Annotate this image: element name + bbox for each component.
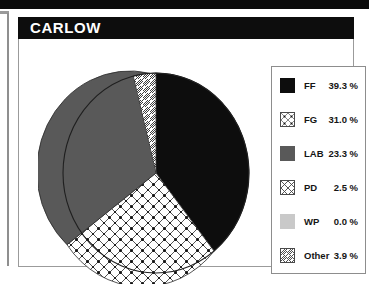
legend-value-pd: 2.5 % (334, 182, 358, 193)
legend-item-pd[interactable]: PD 2.5 % (272, 170, 365, 204)
pie-chart (38, 58, 272, 284)
legend-value-ff: 39.3 % (328, 80, 358, 91)
title-banner: CARLOW (18, 17, 354, 39)
legend-item-lab[interactable]: LAB 23.3 % (272, 136, 365, 170)
legend-item-ff[interactable]: FF 39.3 % (272, 68, 365, 102)
legend-label-ff: FF (304, 80, 316, 91)
legend-value-fg: 31.0 % (328, 114, 358, 125)
legend-label-pd: PD (304, 182, 317, 193)
legend-value-other: 3.9 % (334, 250, 358, 261)
page-top-edge-bar (0, 0, 369, 9)
legend-label-lab: LAB (304, 148, 324, 159)
legend-label-wp: WP (304, 216, 319, 227)
pie-chart-plot-area (38, 58, 272, 284)
legend-swatch-icon-other (280, 248, 295, 263)
legend: FF 39.3 % FG 31.0 % LAB 23.3 % PD 2.5 % … (271, 66, 366, 274)
legend-value-lab: 23.3 % (328, 148, 358, 159)
legend-label-other: Other (304, 250, 329, 261)
legend-item-wp[interactable]: WP 0.0 % (272, 204, 365, 238)
page-title: CARLOW (30, 19, 101, 36)
chart-frame: FF 39.3 % FG 31.0 % LAB 23.3 % PD 2.5 % … (18, 17, 354, 267)
page-margin-rule (7, 13, 9, 266)
legend-swatch-icon-fg (280, 112, 295, 127)
legend-swatch-icon-pd (280, 180, 295, 195)
legend-item-other[interactable]: Other 3.9 % (272, 238, 365, 272)
legend-label-fg: FG (304, 114, 317, 125)
legend-swatch-icon-wp (280, 214, 295, 229)
legend-value-wp: 0.0 % (334, 216, 358, 227)
legend-swatch-icon-lab (280, 146, 295, 161)
legend-item-fg[interactable]: FG 31.0 % (272, 102, 365, 136)
legend-swatch-icon-ff (280, 78, 295, 93)
